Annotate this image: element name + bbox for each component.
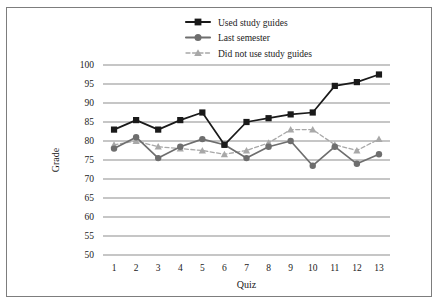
gridlines-group: 10095908580757065605550 [80,60,390,260]
x-tick-label-10: 10 [308,263,318,273]
series-1-group [111,71,382,147]
legend-item-1[interactable]: Used study guides [186,18,288,28]
x-axis-title: Quiz [237,279,257,290]
series-1-point-9 [288,111,294,117]
series-2-point-7 [243,155,249,161]
legend-marker-square-icon [195,19,202,26]
series-3-point-12 [353,147,360,153]
series-2-point-12 [354,161,360,167]
x-tick-label-6: 6 [222,263,227,273]
series-2-point-2 [133,134,139,140]
legend-label-1: Used study guides [218,18,288,28]
series-1-point-1 [111,127,117,133]
legend: Used study guidesLast semesterDid not us… [186,18,312,59]
x-tick-label-13: 13 [374,263,384,273]
series-1-line [114,75,379,145]
y-tick-label-70: 70 [85,174,95,184]
series-3-point-13 [375,136,382,142]
x-tick-label-3: 3 [156,263,161,273]
x-tick-label-11: 11 [330,263,339,273]
y-tick-label-95: 95 [85,79,95,89]
legend-marker-circle-icon [195,34,202,41]
series-1-point-4 [177,117,183,123]
x-tick-label-12: 12 [352,263,362,273]
legend-label-3: Did not use study guides [218,49,312,59]
legend-label-2: Last semester [218,33,271,43]
legend-item-3[interactable]: Did not use study guides [186,49,312,59]
series-2-point-5 [199,136,205,142]
series-1-point-13 [376,71,382,77]
series-1-point-11 [332,83,338,89]
x-tick-label-9: 9 [288,263,293,273]
series-2-point-8 [265,144,271,150]
y-tick-label-50: 50 [85,250,95,260]
y-tick-label-90: 90 [85,98,95,108]
x-tick-label-4: 4 [178,263,183,273]
series-1-point-2 [133,117,139,123]
series-1-point-3 [155,127,161,133]
series-2-point-3 [155,155,161,161]
line-chart: 1009590858075706560555012345678910111213… [0,0,439,305]
series-2-point-1 [111,145,117,151]
y-tick-label-75: 75 [85,155,95,165]
series-2-point-11 [332,144,338,150]
x-tick-label-7: 7 [244,263,249,273]
series-2-point-9 [287,138,293,144]
series-1-point-10 [310,109,316,115]
series-1-point-8 [265,115,271,121]
series-1-point-12 [354,79,360,85]
series-1-point-6 [221,142,227,148]
x-tick-label-5: 5 [200,263,205,273]
x-tick-label-8: 8 [266,263,271,273]
x-tick-label-2: 2 [134,263,139,273]
series-2-point-4 [177,144,183,150]
series-2-point-13 [376,151,382,157]
y-tick-label-85: 85 [85,117,95,127]
series-1-point-5 [199,109,205,115]
legend-item-2[interactable]: Last semester [186,33,271,43]
x-tick-label-1: 1 [112,263,117,273]
y-tick-label-80: 80 [85,136,95,146]
y-tick-label-65: 65 [85,193,95,203]
chart-figure: 1009590858075706560555012345678910111213… [0,0,439,305]
series-1-point-7 [243,119,249,125]
x-tick-labels-group: 12345678910111213 [112,263,384,273]
y-axis-title: Grade [50,147,61,172]
y-tick-label-55: 55 [85,231,95,241]
series-2-point-10 [310,163,316,169]
y-tick-label-100: 100 [80,60,95,70]
y-tick-label-60: 60 [85,212,95,222]
